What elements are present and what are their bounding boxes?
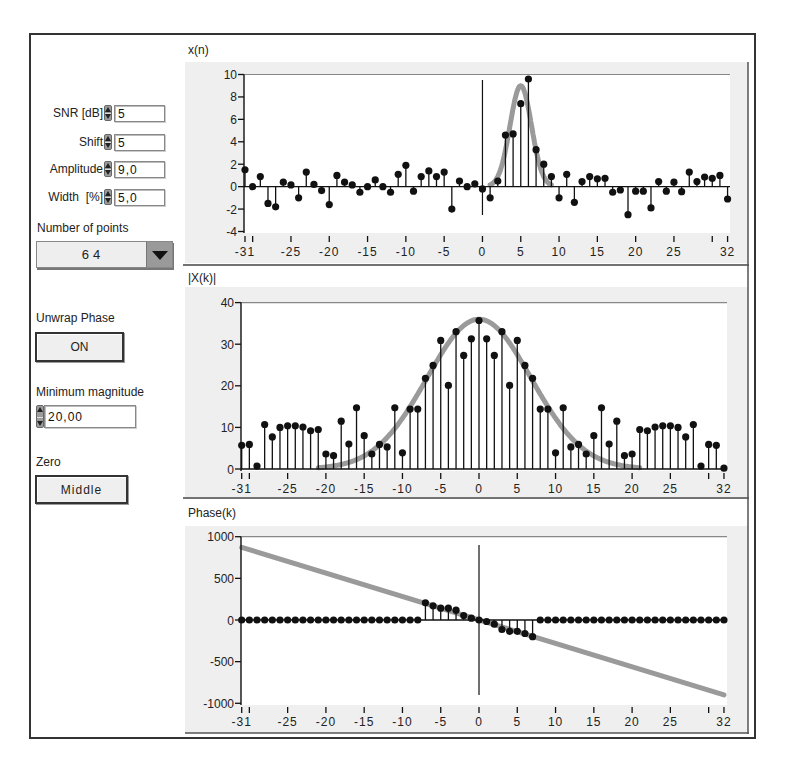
data-point [241,166,248,173]
shift-spinner[interactable] [104,134,112,150]
number-of-points-dropdown[interactable]: 64 [36,241,173,268]
data-point [678,188,685,195]
decrement-arrow-icon[interactable] [37,421,43,426]
data-point [552,449,559,456]
number-of-points-label: Number of points [37,220,128,236]
data-point [621,616,628,623]
y-tick-label: -4 [226,225,237,239]
data-point [441,168,448,175]
data-point [713,616,720,623]
data-point [529,633,536,640]
zero-position-button[interactable]: Middle [35,475,128,504]
data-point [445,382,452,389]
increment-arrow-icon[interactable] [105,107,111,112]
increment-arrow-icon[interactable] [105,191,111,196]
data-point [598,616,605,623]
number-of-points-value: 64 [37,242,149,267]
data-point [621,452,628,459]
decrement-arrow-icon[interactable] [105,143,111,148]
data-point [713,442,720,449]
data-point [629,616,636,623]
x-tick-label: 20 [628,245,643,259]
data-point [376,616,383,623]
increment-arrow-icon[interactable] [37,407,43,412]
x-tick-label: -20 [316,482,336,496]
data-point [368,616,375,623]
x-tick-label: -20 [319,245,339,259]
data-point [284,422,291,429]
data-point [379,183,386,190]
decrement-arrow-icon[interactable] [105,198,111,203]
data-point [636,616,643,623]
data-point [693,178,700,185]
dropdown-arrow-button[interactable] [146,242,172,267]
data-point [468,335,475,342]
y-tick-label: -500 [210,655,234,669]
data-point [609,189,616,196]
x-tick-label: -5 [438,245,451,259]
x-tick-label: 5 [513,482,521,496]
chart-title-xn: x(n) [188,43,209,57]
data-point [276,616,283,623]
data-point [437,605,444,612]
y-tick-label: 0 [230,180,237,194]
snr-spinner[interactable] [104,105,112,121]
data-point [651,616,658,623]
data-point [494,177,501,184]
data-point [445,605,452,612]
y-tick-label: 10 [224,68,238,82]
x-tick-label: 25 [666,245,681,259]
x-tick-label: 15 [586,482,601,496]
x-tick-label: 25 [663,482,678,496]
amplitude-spinner[interactable] [104,161,112,177]
width-input[interactable] [114,189,165,206]
y-tick-label: 30 [221,338,235,352]
data-point [295,194,302,201]
increment-arrow-icon[interactable] [105,136,111,141]
x-tick-label: -15 [357,245,377,259]
unwrap-phase-label: Unwrap Phase [36,310,115,326]
y-tick-label: 1000 [207,530,234,544]
x-tick-label: 32 [716,715,731,729]
snr-input[interactable] [114,105,165,122]
decrement-arrow-icon[interactable] [105,170,111,175]
data-point [555,194,562,201]
data-point [578,178,585,185]
data-point [338,418,345,425]
data-point [253,462,260,469]
x-tick-label: 25 [663,715,678,729]
data-point [540,161,547,168]
unwrap-phase-toggle[interactable]: ON [35,332,124,362]
data-point [387,189,394,196]
spinner-divider [37,417,43,418]
data-point [560,616,567,623]
x-tick-label: -5 [434,715,447,729]
data-point [318,187,325,194]
minimum-magnitude-spinner[interactable] [36,405,44,428]
x-tick-label: 10 [551,245,566,259]
minimum-magnitude-input[interactable] [44,405,136,428]
data-point [690,616,697,623]
x-tick-label: 15 [586,715,601,729]
width-spinner[interactable] [104,189,112,205]
data-point [647,204,654,211]
snr-label: SNR [dB] [30,105,103,121]
x-tick-label: -10 [392,482,412,496]
data-point [705,616,712,623]
decrement-arrow-icon[interactable] [105,114,111,119]
x-tick-label: -5 [434,482,447,496]
data-point [690,421,697,428]
data-point [544,405,551,412]
shift-input[interactable] [114,134,165,151]
amplitude-input[interactable] [114,161,165,178]
width-label: Width [%] [30,189,103,205]
increment-arrow-icon[interactable] [105,163,111,168]
data-point [624,211,631,218]
data-point [483,335,490,342]
data-point [399,449,406,456]
data-point [502,131,509,138]
y-tick-label: 20 [221,379,235,393]
x-tick-label: -31 [232,715,252,729]
data-point [384,616,391,623]
data-point [326,201,333,208]
